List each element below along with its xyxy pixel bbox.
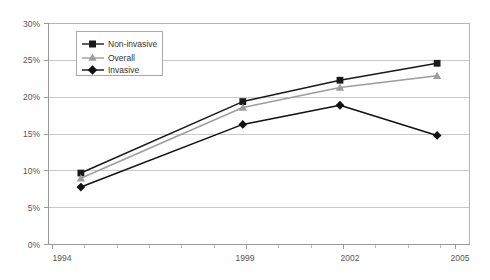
x-label-1994: 1994 bbox=[53, 253, 72, 263]
y-label-25: 25% bbox=[23, 55, 40, 65]
y-label-30: 30% bbox=[23, 19, 40, 29]
y-label-15: 15% bbox=[23, 129, 40, 139]
legend-label-non-invasive: Non-invasive bbox=[108, 39, 157, 49]
y-label-10: 10% bbox=[23, 166, 40, 176]
square-marker-2002 bbox=[337, 77, 344, 84]
x-axis-labels: 1994 1999 2002 2005 bbox=[53, 253, 470, 263]
y-label-5: 5% bbox=[28, 203, 41, 213]
square-marker-icon bbox=[89, 41, 96, 48]
y-axis-labels: 30% 25% 20% 15% 10% 5% 0% bbox=[23, 19, 40, 250]
square-marker-2005 bbox=[434, 60, 441, 67]
x-label-2002: 2002 bbox=[341, 253, 360, 263]
legend-label-overall: Overall bbox=[108, 53, 135, 63]
x-label-2005: 2005 bbox=[451, 253, 470, 263]
line-chart: 30% 25% 20% 15% 10% 5% 0% bbox=[0, 0, 490, 280]
y-axis-ticks bbox=[44, 24, 49, 245]
x-label-1999: 1999 bbox=[236, 253, 255, 263]
y-label-20: 20% bbox=[23, 92, 40, 102]
legend-label-invasive: Invasive bbox=[108, 65, 139, 75]
x-axis-ticks bbox=[53, 245, 456, 250]
legend-item-non-invasive[interactable]: Non-invasive bbox=[82, 39, 157, 49]
chart-container: 30% 25% 20% 15% 10% 5% 0% bbox=[0, 0, 490, 280]
y-label-0: 0% bbox=[28, 240, 41, 250]
chart-legend: Non-invasive Overall Invasive bbox=[77, 32, 163, 76]
